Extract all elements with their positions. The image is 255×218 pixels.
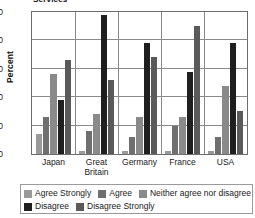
- bar: [172, 126, 178, 154]
- legend-item[interactable]: Disagree Strongly: [76, 202, 155, 211]
- group-separator: [161, 12, 162, 154]
- legend-item[interactable]: Neither agree nor disagree: [139, 189, 251, 198]
- bar: [43, 117, 49, 154]
- legend-label: Disagree: [35, 202, 69, 211]
- legend-label: Agree Strongly: [35, 189, 91, 198]
- y-tick-label: 40: [0, 36, 3, 44]
- y-tick-label: 50: [0, 8, 3, 16]
- bar: [230, 43, 236, 154]
- y-tick-label: 0: [0, 150, 3, 158]
- bar: [222, 86, 228, 154]
- bar: [136, 117, 142, 154]
- bar: [194, 26, 200, 154]
- bar: [215, 137, 221, 154]
- y-axis-label: Percent: [5, 39, 15, 95]
- bar: [108, 80, 114, 154]
- bar: [65, 60, 71, 154]
- x-tick-label: Germany: [118, 157, 161, 167]
- bar: [208, 151, 214, 154]
- legend-label: Agree: [109, 189, 132, 198]
- legend-swatch-icon: [98, 190, 106, 198]
- bar: [79, 151, 85, 154]
- bar: [122, 151, 128, 154]
- x-tick-label: France: [161, 157, 204, 167]
- bar-group: [118, 12, 161, 154]
- legend-swatch-icon: [139, 190, 147, 198]
- bar: [144, 43, 150, 154]
- legend-item[interactable]: Agree: [98, 189, 132, 198]
- legend-row-2: DisagreeDisagree Strongly: [24, 200, 249, 213]
- x-tick-label: Japan: [32, 157, 75, 167]
- legend-swatch-icon: [24, 190, 32, 198]
- bar: [237, 111, 243, 154]
- bar: [86, 131, 92, 154]
- legend-row-1: Agree StronglyAgreeNeither agree nor dis…: [24, 187, 249, 200]
- legend-swatch-icon: [24, 203, 32, 211]
- legend-item[interactable]: Disagree: [24, 202, 69, 211]
- bar-chart: Services Percent 50403020100 JapanGreat …: [0, 0, 255, 218]
- y-tick-label: 30: [0, 65, 3, 73]
- bar: [151, 57, 157, 154]
- bar: [93, 114, 99, 154]
- bar-group: [32, 12, 75, 154]
- group-separator: [204, 12, 205, 154]
- legend-label: Disagree Strongly: [87, 202, 155, 211]
- x-tick-label: USA: [204, 157, 247, 167]
- bar: [58, 100, 64, 154]
- bar-group: [75, 12, 118, 154]
- group-separator: [75, 12, 76, 154]
- bar: [165, 151, 171, 154]
- legend-item[interactable]: Agree Strongly: [24, 189, 91, 198]
- bar: [179, 117, 185, 154]
- legend-swatch-icon: [76, 203, 84, 211]
- bar-group: [204, 12, 247, 154]
- y-tick-label: 10: [0, 122, 3, 130]
- plot-area: [31, 11, 248, 155]
- y-tick-label: 20: [0, 93, 3, 101]
- legend: Agree StronglyAgreeNeither agree nor dis…: [20, 184, 253, 214]
- x-tick-label: Great Britain: [75, 157, 118, 177]
- chart-title: Services: [33, 0, 153, 4]
- group-separator: [118, 12, 119, 154]
- bar: [129, 137, 135, 154]
- legend-label: Neither agree nor disagree: [150, 189, 251, 198]
- bar: [50, 74, 56, 154]
- bar-group: [161, 12, 204, 154]
- bar: [187, 72, 193, 154]
- bar: [36, 134, 42, 154]
- bar: [101, 15, 107, 154]
